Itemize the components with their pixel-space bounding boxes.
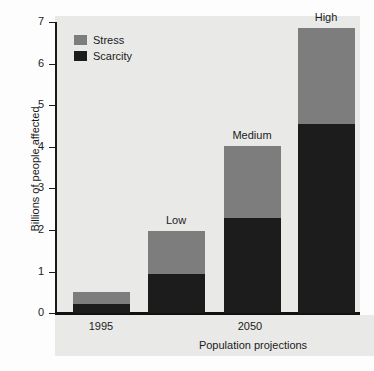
bar-segment-stress bbox=[298, 28, 355, 124]
bar-segment-stress bbox=[73, 292, 130, 304]
bar-segment-scarcity bbox=[298, 124, 355, 313]
y-axis-line bbox=[55, 22, 57, 314]
bar-low bbox=[148, 231, 205, 313]
y-tick-mark-4 bbox=[49, 147, 56, 148]
y-tick-label-0: 0 bbox=[28, 307, 44, 318]
y-tick-label-1: 1 bbox=[28, 266, 44, 277]
y-tick-mark-0 bbox=[49, 313, 56, 314]
y-tick-label-7: 7 bbox=[28, 16, 44, 27]
legend-label-scarcity: Scarcity bbox=[93, 50, 132, 62]
x-axis-title: Population projections bbox=[163, 339, 343, 351]
bar-annotation-low: Low bbox=[136, 214, 216, 226]
bar-segment-scarcity bbox=[148, 274, 205, 313]
legend-swatch-scarcity bbox=[74, 51, 87, 61]
bar-segment-scarcity bbox=[224, 218, 281, 313]
y-tick-mark-2 bbox=[49, 230, 56, 231]
y-tick-label-1-wrap: 1 bbox=[28, 266, 44, 278]
y-tick-label-6: 6 bbox=[28, 58, 44, 69]
bar-high bbox=[298, 28, 355, 313]
bar-annotation-medium: Medium bbox=[212, 129, 292, 141]
legend-label-stress: Stress bbox=[93, 34, 124, 46]
y-tick-label-6-wrap: 6 bbox=[28, 58, 44, 70]
x-axis-label-2050: 2050 bbox=[205, 320, 295, 332]
y-tick-mark-3 bbox=[49, 188, 56, 189]
bar-segment-stress bbox=[224, 146, 281, 218]
y-tick-label-0-wrap: 0 bbox=[28, 307, 44, 319]
x-axis-label-1995: 1995 bbox=[56, 320, 146, 332]
y-tick-label-7-wrap: 7 bbox=[28, 16, 44, 28]
y-tick-mark-7 bbox=[49, 22, 56, 23]
bar-segment-scarcity bbox=[73, 304, 130, 313]
bar-segment-stress bbox=[148, 231, 205, 274]
bar-annotation-high: High bbox=[286, 11, 366, 23]
chart-figure: 7 6 5 4 3 2 1 0 Billions of people affec… bbox=[0, 0, 374, 371]
y-tick-mark-6 bbox=[49, 64, 56, 65]
y-tick-mark-1 bbox=[49, 272, 56, 273]
bar-medium bbox=[224, 146, 281, 313]
y-tick-mark-5 bbox=[49, 105, 56, 106]
legend-swatch-stress bbox=[74, 35, 87, 45]
bar-1995 bbox=[73, 292, 130, 313]
y-axis-title: Billions of people affected bbox=[29, 74, 41, 264]
